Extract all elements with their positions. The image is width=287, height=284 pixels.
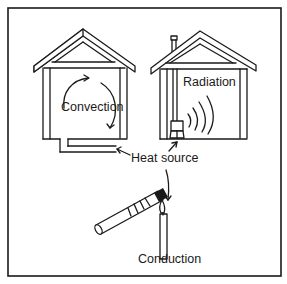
frame-border: [8, 8, 281, 276]
radiation-label: Radiation: [183, 76, 236, 89]
conduction-rod: [93, 188, 168, 259]
radiation-waves: [188, 96, 213, 134]
convection-label: Convection: [61, 101, 124, 114]
heat-source-label: Heat source: [131, 152, 198, 165]
stove: [171, 121, 183, 131]
convection-house: [34, 29, 135, 152]
flame: [160, 200, 165, 213]
conduction-label: Conduction: [138, 253, 201, 266]
